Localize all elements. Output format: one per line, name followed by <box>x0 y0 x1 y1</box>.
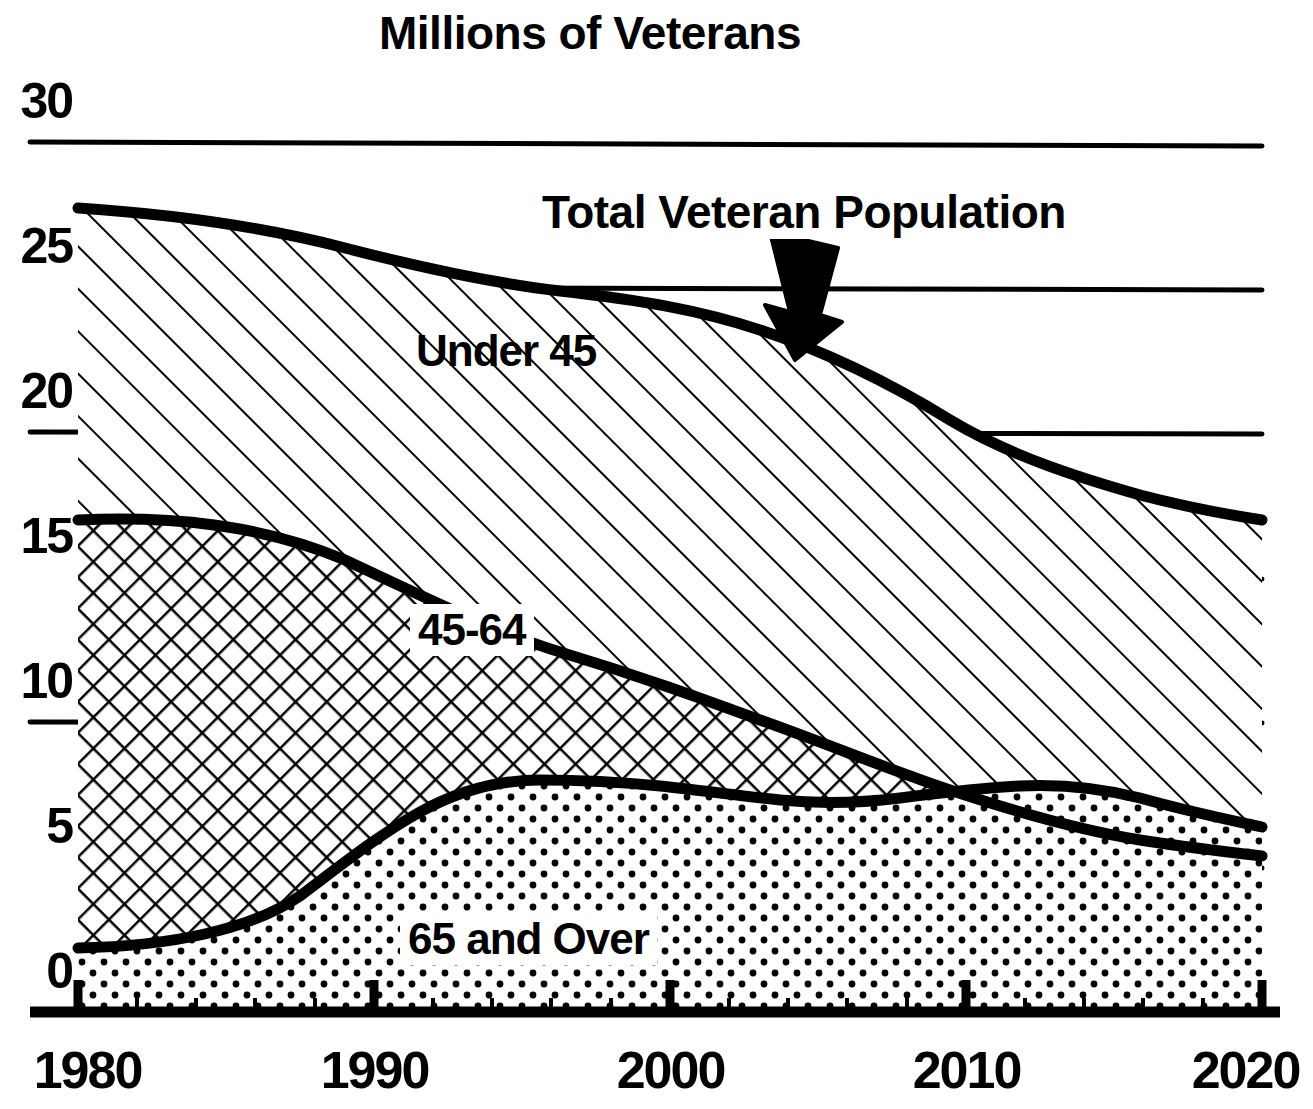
ytick-label-20: 20 <box>0 362 72 420</box>
band-label-65-and-over: 65 and Over <box>400 913 657 965</box>
band-label-under-45: Under 45 <box>408 325 604 377</box>
ytick-label-15: 15 <box>0 507 72 565</box>
ytick-label-25: 25 <box>0 217 72 275</box>
xtick-label-1980: 1980 <box>0 1040 175 1100</box>
ytick-label-0: 0 <box>0 942 72 1000</box>
chart-page: Millions of Veterans <box>0 0 1313 1109</box>
gridline-30 <box>30 142 1262 146</box>
total-veteran-population-annotation: Total Veteran Population <box>536 185 1072 239</box>
band-label-45-64: 45-64 <box>410 604 534 656</box>
ytick-label-5: 5 <box>0 797 72 855</box>
xtick-label-2000: 2000 <box>583 1040 758 1100</box>
xtick-label-1990: 1990 <box>287 1040 462 1100</box>
xtick-label-2020: 2020 <box>1178 1040 1313 1100</box>
ytick-label-30: 30 <box>0 72 72 130</box>
ytick-label-10: 10 <box>0 652 72 710</box>
area-bands <box>78 208 1262 1012</box>
xtick-label-2010: 2010 <box>879 1040 1054 1100</box>
